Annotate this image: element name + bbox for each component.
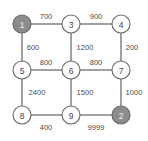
graph-node-2[interactable]: 2 [112,106,130,124]
node-circle-8[interactable] [13,106,31,124]
graph-node-8[interactable]: 8 [13,106,31,124]
node-circle-6[interactable] [62,61,80,79]
graph-node-7[interactable]: 7 [112,61,130,79]
edge-weight-label: 900 [90,12,103,21]
node-circle-1[interactable] [13,15,31,33]
node-circle-4[interactable] [112,15,130,33]
edge-weight-label: 400 [40,123,53,132]
graph-diagram-canvas: 7009006001200200800800240015001000400999… [0,0,148,141]
node-circle-5[interactable] [13,61,31,79]
edge-weight-label: 600 [27,43,40,52]
edge-weight-label: 800 [90,58,103,67]
nodes-layer: 134567892 [13,15,130,124]
edge-weight-label: 2400 [29,88,46,97]
node-circle-3[interactable] [62,15,80,33]
graph-node-6[interactable]: 6 [62,61,80,79]
node-circle-9[interactable] [62,106,80,124]
edge-weight-label: 200 [126,43,139,52]
graph-svg: 7009006001200200800800240015001000400999… [0,0,148,141]
edge-weight-label: 1200 [77,43,94,52]
edge-weight-label: 1000 [126,88,143,97]
edge-weight-label: 700 [40,12,53,21]
graph-node-5[interactable]: 5 [13,61,31,79]
edge-weight-label: 9999 [88,123,105,132]
graph-node-3[interactable]: 3 [62,15,80,33]
graph-node-4[interactable]: 4 [112,15,130,33]
graph-node-1[interactable]: 1 [13,15,31,33]
graph-node-9[interactable]: 9 [62,106,80,124]
edge-weight-label: 800 [40,58,53,67]
edge-weight-label: 1500 [77,88,94,97]
node-circle-2[interactable] [112,106,130,124]
node-circle-7[interactable] [112,61,130,79]
